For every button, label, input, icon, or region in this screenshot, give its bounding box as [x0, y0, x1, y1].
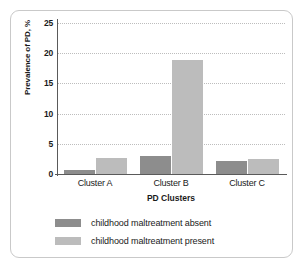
bar[interactable]	[64, 170, 95, 174]
x-axis-line	[55, 174, 287, 175]
bar-groups	[57, 23, 285, 174]
bar[interactable]	[96, 158, 127, 174]
legend-label: childhood maltreatment absent	[91, 218, 211, 228]
y-axis-tick-label: 25	[31, 18, 53, 28]
x-axis-category-label: Cluster C	[209, 178, 285, 188]
bar-group	[216, 23, 279, 174]
bar[interactable]	[248, 159, 279, 174]
y-axis-title: Prevalence of PD, %	[23, 0, 32, 118]
y-axis-tick-label: 15	[31, 78, 53, 88]
figure-card: 0510152025 Prevalence of PD, % Cluster A…	[10, 10, 293, 258]
legend-swatch-icon	[55, 219, 81, 227]
chart-legend: childhood maltreatment absentchildhood m…	[55, 214, 281, 250]
legend-label: childhood maltreatment present	[91, 236, 214, 246]
x-axis-category-label: Cluster B	[133, 178, 209, 188]
y-axis-tick-labels: 0510152025	[29, 23, 53, 174]
legend-swatch-icon	[55, 237, 81, 245]
bar[interactable]	[172, 60, 203, 174]
y-axis-tick-label: 10	[31, 109, 53, 119]
x-axis-category-labels: Cluster ACluster BCluster C	[57, 178, 285, 188]
bar[interactable]	[140, 156, 171, 174]
y-axis-tick-label: 5	[31, 139, 53, 149]
x-axis-category-label: Cluster A	[57, 178, 133, 188]
bar[interactable]	[216, 161, 247, 174]
x-axis-title: PD Clusters	[57, 193, 285, 203]
bar-group	[64, 23, 127, 174]
legend-item[interactable]: childhood maltreatment absent	[55, 214, 281, 232]
bar-group	[140, 23, 203, 174]
y-axis-tick-label: 20	[31, 48, 53, 58]
y-axis-tick-label: 0	[31, 169, 53, 179]
legend-item[interactable]: childhood maltreatment present	[55, 232, 281, 250]
